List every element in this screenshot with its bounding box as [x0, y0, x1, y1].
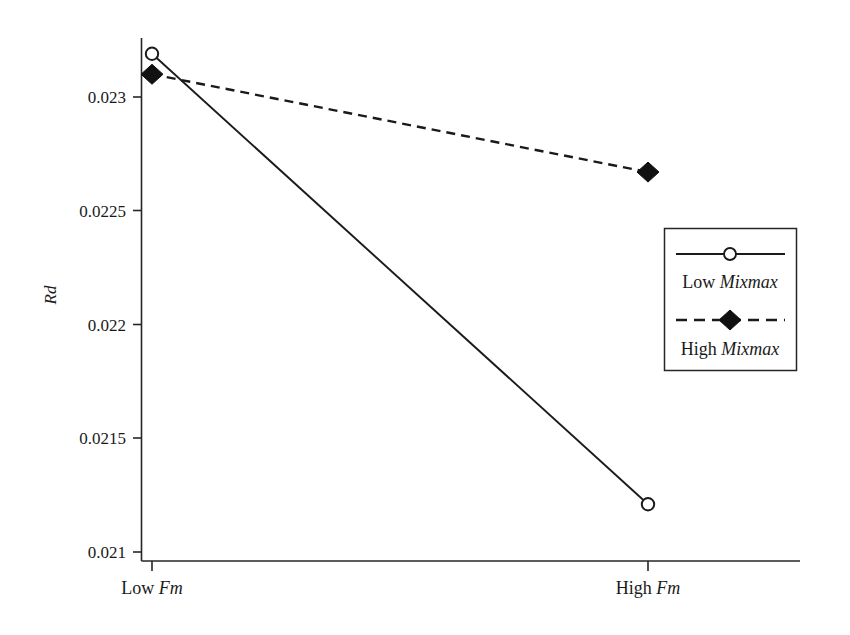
data-point-low-mixmax-low-fm[interactable] [146, 48, 158, 60]
legend-marker-open-circle-icon [724, 248, 736, 260]
legend-high-emphasis: Mixmax [720, 339, 779, 359]
legend: Low Mixmax High Mixmax [665, 229, 797, 371]
y-tick-label-2: 0.022 [88, 316, 126, 335]
x-category-low-prefix: Low [121, 578, 154, 598]
x-category-label-low: Low Fm [121, 578, 183, 598]
legend-low-emphasis: Mixmax [719, 272, 778, 292]
legend-high-prefix: High [681, 339, 717, 359]
interaction-plot-figure: 0.023 0.0225 0.022 0.0215 0.021 Rd Low F… [0, 0, 850, 635]
legend-low-prefix: Low [682, 272, 715, 292]
y-tick-label-1: 0.0225 [79, 202, 126, 221]
y-tick-label-4: 0.021 [88, 543, 126, 562]
legend-label-high-mixmax: High Mixmax [681, 339, 779, 359]
x-category-high-prefix: High [616, 578, 652, 598]
x-category-low-emphasis: Fm [158, 578, 183, 598]
chart-canvas: 0.023 0.0225 0.022 0.0215 0.021 Rd Low F… [0, 0, 850, 635]
legend-label-low-mixmax: Low Mixmax [682, 272, 777, 292]
data-point-low-mixmax-high-fm[interactable] [642, 498, 654, 510]
y-tick-label-0: 0.023 [88, 88, 126, 107]
x-category-high-emphasis: Fm [655, 578, 680, 598]
y-tick-label-3: 0.0215 [79, 429, 126, 448]
y-axis-title: Rd [41, 285, 60, 305]
x-category-label-high: High Fm [616, 578, 681, 598]
